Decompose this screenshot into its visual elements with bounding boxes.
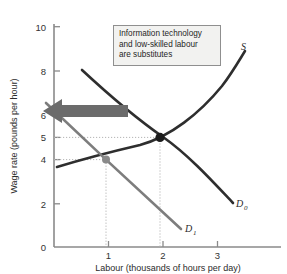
chart-figure: 10 8 6 5 4 2 0 1 2 3 S D 0 D 1 Labour (t… <box>0 0 287 274</box>
x-axis-title: Labour (thousands of hours per day) <box>95 263 241 273</box>
curve-label-demand-new: D <box>184 223 193 234</box>
y-tick-label-6: 6 <box>41 110 46 121</box>
y-axis-title: Wage rate (pounds per hour) <box>9 78 19 193</box>
demand-shift-arrow <box>43 99 128 123</box>
annotation-line-2: and low-skilled labour <box>119 40 215 51</box>
annotation-line-3: are substitutes <box>119 50 215 61</box>
curve-label-demand-new-subscript: 1 <box>193 229 197 237</box>
y-tick-label-0: 0 <box>41 242 46 253</box>
equilibrium-marker-original <box>155 133 164 142</box>
curve-label-demand-original: D <box>235 198 244 209</box>
equilibrium-marker-new <box>102 156 110 164</box>
x-tick-label-1: 1 <box>106 250 111 261</box>
curve-label-demand-original-subscript: 0 <box>244 204 248 212</box>
curve-demand-new <box>46 103 181 229</box>
curve-label-supply: S <box>241 41 246 52</box>
y-tick-label-10: 10 <box>35 22 46 33</box>
annotation-line-1: Information technology <box>119 29 215 40</box>
annotation-callout: Information technology and low-skilled l… <box>113 25 221 66</box>
y-tick-label-5: 5 <box>41 132 46 143</box>
y-tick-label-2: 2 <box>41 199 46 210</box>
x-tick-label-2: 2 <box>160 250 165 261</box>
x-tick-label-3: 3 <box>215 250 220 261</box>
y-tick-label-8: 8 <box>41 66 46 77</box>
y-tick-label-4: 4 <box>41 154 46 165</box>
